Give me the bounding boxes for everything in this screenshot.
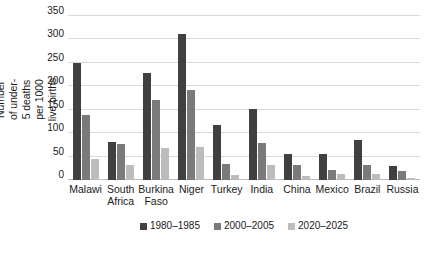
x-tick-label: South Africa — [103, 183, 138, 213]
bar — [178, 34, 186, 180]
y-axis-tick-labels: 050100150200250300350 — [38, 16, 64, 180]
bar — [73, 63, 81, 180]
y-tick-label: 50 — [53, 147, 64, 157]
y-tick-label: 350 — [47, 6, 64, 16]
x-tick-label: Burkina Faso — [138, 183, 174, 213]
y-tick-label: 300 — [47, 29, 64, 39]
legend-swatch-icon — [140, 223, 147, 230]
plot-area — [68, 16, 420, 180]
bar — [161, 148, 169, 180]
y-tick-label: 150 — [47, 100, 64, 110]
x-tick-label: Brazil — [350, 183, 385, 213]
bar — [302, 176, 310, 180]
bar — [222, 164, 230, 180]
legend-label: 2020–2025 — [298, 221, 348, 231]
legend-swatch-icon — [288, 223, 295, 230]
bar-group — [244, 16, 279, 180]
x-tick-label: Mexico — [315, 183, 350, 213]
bar — [213, 125, 221, 180]
bar — [258, 143, 266, 180]
bar — [293, 165, 301, 180]
y-tick-label: 100 — [47, 123, 64, 133]
legend-entry: 1980–1985 — [140, 221, 200, 231]
bar — [328, 170, 336, 180]
bar — [354, 140, 362, 180]
bar — [143, 73, 151, 180]
bar — [82, 115, 90, 180]
bar-group — [385, 16, 420, 180]
bar-group — [279, 16, 314, 180]
bar-group — [314, 16, 349, 180]
bar — [196, 147, 204, 180]
legend-label: 1980–1985 — [150, 221, 200, 231]
x-tick-label: China — [279, 183, 314, 213]
bar — [363, 165, 371, 180]
bar — [337, 174, 345, 180]
bar — [187, 90, 195, 180]
x-tick-label: India — [244, 183, 279, 213]
bar — [231, 175, 239, 180]
bar-groups — [68, 16, 420, 180]
x-tick-label: Niger — [174, 183, 209, 213]
y-tick-label: 0 — [58, 170, 64, 180]
x-tick-label: Turkey — [209, 183, 244, 213]
bar — [372, 174, 380, 180]
x-axis-tick-labels: MalawiSouth AfricaBurkina FasoNigerTurke… — [68, 183, 420, 213]
bar-group — [103, 16, 138, 180]
bar — [91, 159, 99, 180]
bar-chart-figure: Number of under-5 deaths per 1000 live b… — [0, 0, 437, 254]
x-tick-label: Russia — [385, 183, 420, 213]
bar-group — [68, 16, 103, 180]
y-tick-label: 250 — [47, 53, 64, 63]
bar-group — [174, 16, 209, 180]
bar — [319, 154, 327, 180]
legend-entry: 2020–2025 — [288, 221, 348, 231]
chart-legend: 1980–19852000–20052020–2025 — [68, 221, 420, 231]
bar — [126, 165, 134, 180]
bar — [249, 109, 257, 180]
legend-swatch-icon — [214, 223, 221, 230]
legend-entry: 2000–2005 — [214, 221, 274, 231]
bar — [152, 100, 160, 180]
bar — [389, 166, 397, 180]
x-tick-label: Malawi — [68, 183, 103, 213]
bar — [407, 178, 415, 180]
bar-group — [350, 16, 385, 180]
bar-group — [209, 16, 244, 180]
bar — [267, 165, 275, 180]
bar — [117, 144, 125, 180]
bar — [108, 142, 116, 180]
bar — [284, 154, 292, 180]
bar-group — [138, 16, 173, 180]
y-tick-label: 200 — [47, 76, 64, 86]
legend-label: 2000–2005 — [224, 221, 274, 231]
bar — [398, 171, 406, 180]
